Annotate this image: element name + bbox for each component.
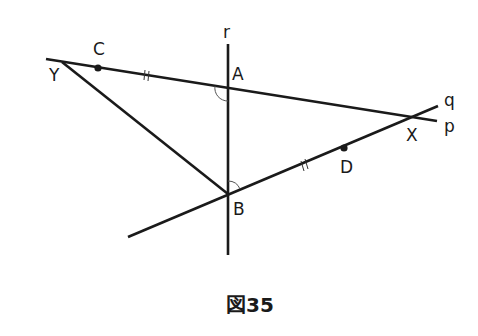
line-q [128, 106, 438, 237]
geometry-diagram: r A B C D X Y q p 図35 [0, 0, 478, 336]
segment-yb [62, 62, 228, 194]
label-p: p [444, 116, 455, 136]
label-a: A [232, 64, 244, 84]
label-d: D [340, 157, 353, 177]
angle-arc-b [228, 181, 240, 189]
point-d-dot [340, 144, 347, 151]
label-y: Y [48, 65, 60, 85]
point-c-dot [94, 64, 101, 71]
figure-caption: 図35 [226, 293, 274, 317]
label-c: C [93, 39, 105, 59]
label-q: q [444, 90, 455, 110]
label-b: B [233, 199, 245, 219]
label-r: r [223, 22, 230, 42]
label-x: X [406, 125, 418, 145]
